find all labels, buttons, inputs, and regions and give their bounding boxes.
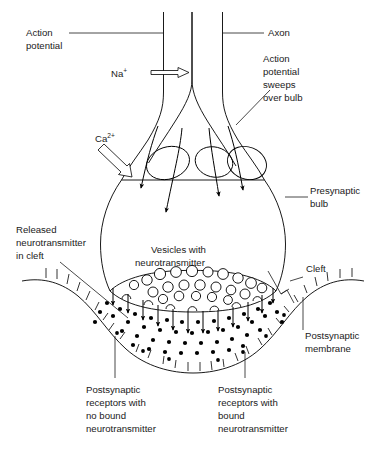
axon-outline [122, 12, 265, 180]
label-receptors-bound-line4: neurotransmitter [218, 423, 289, 434]
label-calcium-ion: Ca2+ [95, 132, 115, 144]
sodium-influx-arrow [151, 68, 189, 78]
bound-receptor [211, 358, 224, 370]
synaptic-vesicles [129, 265, 266, 304]
label-ap-sweeps-line2: potential [263, 66, 299, 77]
label-presynaptic-bulb-line1: Presynaptic [310, 185, 360, 196]
label-presynaptic-bulb-line2: bulb [310, 198, 328, 209]
label-receptors-unbound-line3: no bound [86, 410, 126, 421]
label-ap-sweeps-line1: Action [263, 53, 290, 64]
label-ap-sweeps-line3: sweeps [263, 79, 296, 90]
label-postsynaptic-membrane-line1: Postsynaptic [305, 330, 360, 341]
label-action-potential-line1: Action [26, 27, 53, 38]
label-action-potential-line2: potential [26, 40, 62, 51]
label-vesicles-line1: Vesicles with [151, 244, 206, 255]
label-released-nt-line2: neurotransmitter [16, 237, 87, 248]
calcium-influx-arrows [141, 126, 243, 212]
label-cleft: Cleft [306, 263, 326, 274]
calcium-influx-hollow-arrow [98, 144, 132, 177]
label-receptors-bound-line3: bound [218, 410, 245, 421]
label-sodium-ion: Na+ [111, 67, 127, 79]
label-released-nt-line1: Released [16, 224, 57, 235]
label-receptors-bound-line2: receptors with [218, 397, 278, 408]
synapse-diagram: Action potential Axon Na+ Ca2+ Action po… [0, 0, 386, 451]
label-released-nt-line3: in cleft [16, 250, 44, 261]
label-ap-sweeps-line4: over bulb [263, 92, 302, 103]
label-receptors-unbound-line4: neurotransmitter [86, 423, 157, 434]
label-receptors-bound-line1: Postsynaptic [218, 384, 273, 395]
diagram-canvas: Action potential Axon Na+ Ca2+ Action po… [0, 0, 386, 451]
label-receptors-unbound-line1: Postsynaptic [86, 384, 141, 395]
bound-receptor [163, 356, 176, 368]
label-axon: Axon [268, 27, 290, 38]
label-receptors-unbound-line2: receptors with [86, 397, 146, 408]
organelle-ovals [142, 141, 271, 186]
label-postsynaptic-membrane-line2: membrane [305, 343, 351, 354]
label-vesicles-line2: neurotransmitter [135, 257, 206, 268]
